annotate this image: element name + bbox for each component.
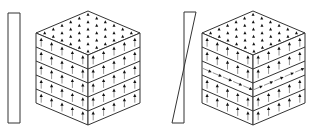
diagram-canvas (0, 0, 310, 132)
panel-right (172, 11, 305, 125)
profile-rectangle (8, 13, 20, 123)
profile-twisted-bar (172, 12, 196, 123)
cube (36, 11, 140, 125)
panel-left (8, 11, 140, 125)
figure (0, 0, 310, 132)
cube (202, 11, 305, 125)
